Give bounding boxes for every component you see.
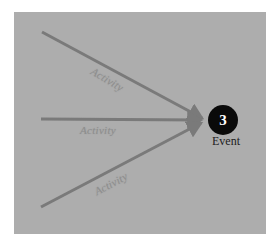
bottom-activity-arrow — [41, 123, 201, 207]
middle-activity-label: Activity — [80, 124, 116, 136]
event-node-number: 3 — [219, 113, 227, 128]
diagram-canvas: Activity Activity Activity 3 Event — [0, 0, 277, 246]
middle-activity-arrow — [41, 119, 201, 120]
event-node-label: Event — [203, 134, 249, 149]
event-node: 3 — [208, 105, 238, 135]
top-activity-arrow — [42, 32, 202, 118]
